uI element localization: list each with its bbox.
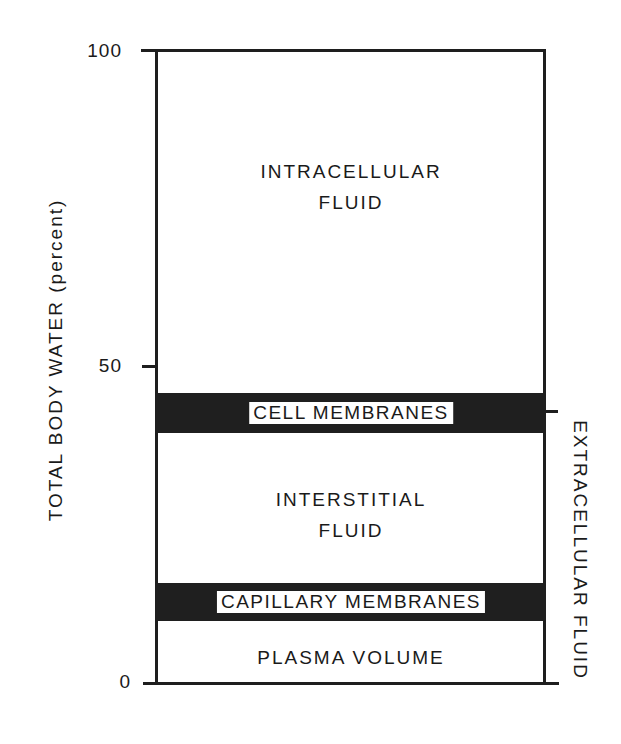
- tick-label-50: 50: [62, 355, 122, 377]
- cell-membranes-band: CELL MEMBRANES: [156, 393, 546, 433]
- cell-membranes-label: CELL MEMBRANES: [249, 402, 453, 424]
- plasma-volume-label: PLASMA VOLUME: [156, 642, 546, 673]
- intracellular-line2: FLUID: [156, 187, 546, 218]
- interstitial-line1: INTERSTITIAL: [156, 484, 546, 515]
- tick-50: [142, 365, 157, 368]
- bottom-axis-line: [143, 682, 559, 685]
- extracellular-fluid-label: EXTRACELLULAR FLUID: [569, 420, 591, 680]
- tick-label-0: 0: [71, 671, 131, 693]
- interstitial-line2: FLUID: [156, 515, 546, 546]
- top-edge-line: [141, 49, 546, 52]
- intracellular-line1: INTRACELLULAR: [156, 156, 546, 187]
- tick-label-100: 100: [62, 40, 122, 62]
- capillary-membranes-label: CAPILLARY MEMBRANES: [217, 591, 485, 613]
- interstitial-fluid-label: INTERSTITIAL FLUID: [156, 484, 546, 546]
- intracellular-fluid-label: INTRACELLULAR FLUID: [156, 156, 546, 218]
- extracellular-bracket-tick: [544, 410, 558, 413]
- capillary-membranes-band: CAPILLARY MEMBRANES: [156, 583, 546, 621]
